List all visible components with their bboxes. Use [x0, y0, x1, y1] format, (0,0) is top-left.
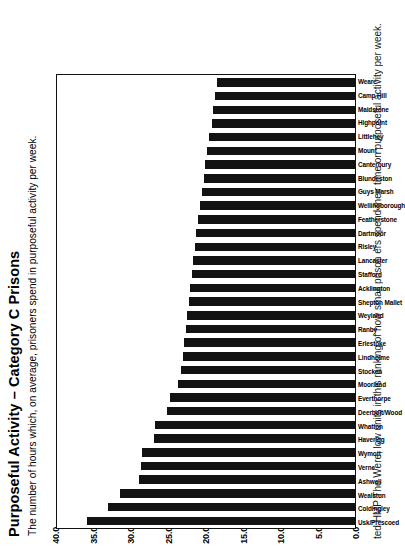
bar[interactable] — [193, 256, 354, 264]
bar[interactable] — [205, 160, 354, 168]
bar[interactable] — [190, 284, 354, 292]
bar[interactable] — [139, 476, 355, 484]
bar[interactable] — [212, 119, 355, 127]
bar-series — [57, 75, 354, 527]
bar-slot — [57, 144, 354, 158]
bar[interactable] — [195, 243, 355, 251]
bar-slot — [57, 377, 354, 391]
bar-slot — [57, 185, 354, 199]
page-footer-text: ted HMP The Were, low units in this rank… — [372, 0, 383, 539]
bar-slot — [57, 117, 354, 131]
bar-slot — [57, 445, 354, 459]
bar[interactable] — [196, 229, 354, 237]
bar[interactable] — [183, 352, 355, 360]
bar-slot — [57, 295, 354, 309]
bar[interactable] — [181, 366, 354, 374]
bar-slot — [57, 459, 354, 473]
bar-slot — [57, 322, 354, 336]
bar-slot — [57, 254, 354, 268]
bar-slot — [57, 103, 354, 117]
plot-area — [56, 74, 356, 529]
bar-slot — [57, 267, 354, 281]
bar[interactable] — [192, 270, 355, 278]
bar[interactable] — [87, 517, 355, 525]
bar-slot — [57, 199, 354, 213]
bar[interactable] — [141, 462, 355, 470]
page-subtitle: The number of hours which, on average, p… — [27, 136, 38, 536]
bar[interactable] — [213, 106, 354, 114]
bar-slot — [57, 158, 354, 172]
bar[interactable] — [184, 338, 354, 346]
value-axis: 0.05.010.015.020.025.030.035.040.0 — [56, 527, 356, 548]
bar[interactable] — [215, 92, 355, 100]
bar-slot — [57, 500, 354, 514]
bar-slot — [57, 363, 354, 377]
bar-slot — [57, 240, 354, 254]
axis-tick-label: 10.0 — [276, 527, 286, 548]
bar[interactable] — [155, 421, 354, 429]
bar-slot — [57, 418, 354, 432]
axis-tick-label: 35.0 — [89, 527, 99, 548]
bar[interactable] — [200, 201, 355, 209]
bar-slot — [57, 308, 354, 322]
axis-tick-label: 30.0 — [126, 527, 136, 548]
bar[interactable] — [217, 78, 355, 86]
bar-slot — [57, 432, 354, 446]
bar-slot — [57, 336, 354, 350]
bar[interactable] — [198, 215, 355, 223]
bar-slot — [57, 404, 354, 418]
bar-slot — [57, 350, 354, 364]
bar-slot — [57, 130, 354, 144]
axis-tick-label: 0.0 — [351, 527, 361, 548]
bar[interactable] — [209, 133, 355, 141]
bar[interactable] — [120, 489, 355, 497]
bar-slot — [57, 487, 354, 501]
bar-slot — [57, 89, 354, 103]
bar[interactable] — [187, 311, 354, 319]
axis-tick-label: 25.0 — [164, 527, 174, 548]
bar[interactable] — [167, 407, 354, 415]
bar[interactable] — [207, 147, 355, 155]
bar[interactable] — [108, 503, 355, 511]
bar[interactable] — [142, 448, 355, 456]
bar-slot — [57, 281, 354, 295]
bar-slot — [57, 76, 354, 90]
bar-slot — [57, 391, 354, 405]
bar[interactable] — [204, 174, 355, 182]
bar[interactable] — [186, 325, 355, 333]
bar[interactable] — [202, 188, 355, 196]
bar-slot — [57, 514, 354, 528]
bar-slot — [57, 473, 354, 487]
bar[interactable] — [154, 434, 355, 442]
axis-tick-label: 5.0 — [314, 527, 324, 548]
axis-tick-label: 15.0 — [239, 527, 249, 548]
bar[interactable] — [170, 393, 354, 401]
page-title: Purposeful Activity – Category C Prisons — [6, 251, 22, 537]
bar-slot — [57, 213, 354, 227]
bar[interactable] — [189, 297, 355, 305]
axis-tick-label: 40.0 — [51, 527, 61, 548]
bar-slot — [57, 226, 354, 240]
axis-tick-label: 20.0 — [201, 527, 211, 548]
bar[interactable] — [178, 380, 355, 388]
bar-slot — [57, 171, 354, 185]
